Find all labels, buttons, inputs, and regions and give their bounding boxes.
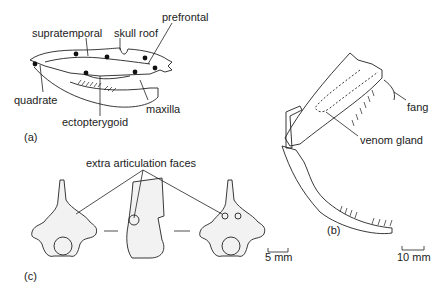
scale-label-10mm: 10 mm: [397, 251, 431, 263]
scale-label-5mm: 5 mm: [265, 251, 293, 263]
panel-tag-a: (a): [24, 131, 37, 143]
label-fang: fang: [407, 101, 428, 113]
label-ectopterygoid: ectopterygoid: [62, 116, 128, 128]
scale-bar-10mm: [402, 246, 424, 250]
label-prefrontal: prefrontal: [162, 11, 208, 23]
label-maxilla: maxilla: [146, 103, 180, 115]
label-skull-roof: skull roof: [114, 27, 158, 39]
panel-tag-b: (b): [327, 224, 340, 236]
label-extra-articulation-faces: extra articulation faces: [86, 157, 196, 169]
label-quadrate: quadrate: [14, 94, 57, 106]
label-venom-gland: venom gland: [360, 134, 423, 146]
panel-tag-c: (c): [24, 270, 37, 282]
vertebrae-drawing: [32, 178, 265, 258]
label-supratemporal: supratemporal: [32, 27, 102, 39]
figure: supratemporal skull roof prefrontal quad…: [0, 0, 442, 290]
